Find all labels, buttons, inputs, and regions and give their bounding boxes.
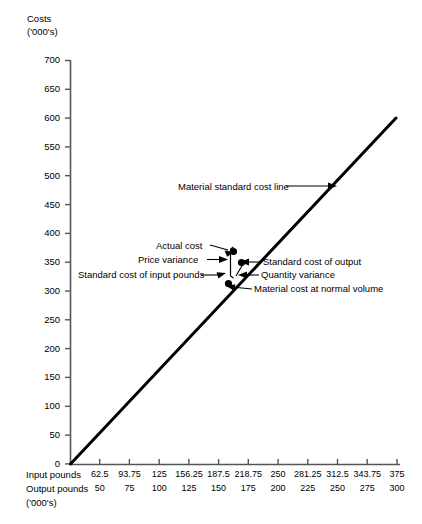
point-standard-cost-of-output <box>238 259 245 266</box>
y-tick-label-450: 450 <box>22 200 60 210</box>
x-tick-input-4: 156.25 <box>175 469 203 480</box>
x-tick-input-9: 312.5 <box>326 469 349 480</box>
y-tick-label-200: 200 <box>22 344 60 354</box>
y-tick-label-150: 150 <box>22 372 60 382</box>
x-tick-output-4: 125 <box>181 483 196 494</box>
x-tick-output-1: 50 <box>95 483 105 494</box>
x-axis-units: ('000's) <box>26 497 57 509</box>
y-tick-label-350: 350 <box>22 257 60 267</box>
x-tick-output-5: 150 <box>211 483 226 494</box>
x-tick-input-8: 281.25 <box>294 469 322 480</box>
x-tick-input-6: 218.75 <box>235 469 263 480</box>
x-tick-output-3: 100 <box>152 483 167 494</box>
annotation-standard-cost-of-output: Standard cost of output <box>263 256 361 267</box>
annotation-material-standard-cost-line: Material standard cost line <box>178 181 289 192</box>
y-tick-label-600: 600 <box>22 113 60 123</box>
y-tick-label-300: 300 <box>22 286 60 296</box>
annotation-standard-cost-of-input-pounds: Standard cost of input pounds <box>78 269 204 280</box>
y-tick-label-700: 700 <box>22 55 60 65</box>
annotation-material-cost-at-normal-volume: Material cost at normal volume <box>254 283 383 294</box>
x-axis-row-label-output-pounds: Output pounds <box>26 483 88 495</box>
point-material-cost-at-normal-volume <box>225 280 232 287</box>
x-tick-input-1: 62.5 <box>91 469 109 480</box>
x-axis-row-label-input-pounds: Input pounds <box>26 469 81 481</box>
y-tick-label-50: 50 <box>22 430 60 440</box>
x-tick-input-3: 125 <box>152 469 167 480</box>
x-tick-output-6: 175 <box>241 483 256 494</box>
y-tick-label-550: 550 <box>22 142 60 152</box>
y-axis-title-line1: Costs <box>27 13 51 24</box>
x-tick-input-5: 187.5 <box>207 469 230 480</box>
y-axis-title: Costs ('000's) <box>27 12 58 38</box>
material-variance-chart: Costs ('000's) 700 650 600 550 500 450 4… <box>0 0 422 524</box>
annotation-quantity-variance: Quantity variance <box>261 269 335 280</box>
x-tick-output-9: 250 <box>330 483 345 494</box>
y-tick-label-250: 250 <box>22 315 60 325</box>
x-tick-output-10: 275 <box>360 483 375 494</box>
x-tick-input-7: 250 <box>271 469 286 480</box>
y-tick-label-650: 650 <box>22 84 60 94</box>
annotation-actual-cost: Actual cost <box>156 240 202 251</box>
y-tick-label-100: 100 <box>22 401 60 411</box>
x-tick-output-11: 300 <box>389 483 404 494</box>
y-tick-label-0: 0 <box>22 459 60 469</box>
x-tick-input-11: 375 <box>389 469 404 480</box>
point-actual-cost <box>230 248 237 255</box>
x-tick-output-8: 225 <box>300 483 315 494</box>
x-tick-input-2: 93.75 <box>118 469 141 480</box>
annotation-price-variance: Price variance <box>138 254 198 265</box>
y-axis-title-line2: ('000's) <box>27 25 58 38</box>
x-tick-input-10: 343.75 <box>353 469 381 480</box>
y-tick-label-400: 400 <box>22 228 60 238</box>
x-tick-output-2: 75 <box>124 483 134 494</box>
y-tick-marks <box>65 61 70 464</box>
x-tick-output-7: 200 <box>271 483 286 494</box>
y-tick-label-500: 500 <box>22 171 60 181</box>
